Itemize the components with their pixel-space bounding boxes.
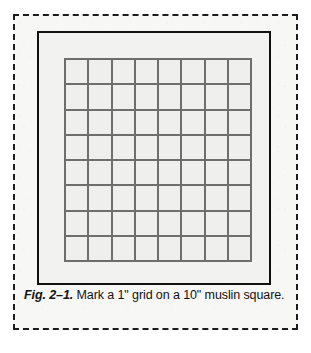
grid-cell <box>136 237 159 262</box>
grid-cell <box>89 237 112 262</box>
grid-cell <box>182 237 205 262</box>
grid-cell <box>66 212 89 237</box>
grid-cell <box>113 111 136 136</box>
grid-cell <box>159 237 182 262</box>
grid-cell <box>159 161 182 186</box>
grid-cell <box>66 186 89 211</box>
grid-cell <box>89 212 112 237</box>
grid-cell <box>113 60 136 85</box>
grid-cell <box>206 237 229 262</box>
grid-cell <box>89 85 112 110</box>
grid-cell <box>113 161 136 186</box>
grid-cell <box>113 237 136 262</box>
grid-cell <box>206 111 229 136</box>
grid-cell <box>136 186 159 211</box>
one-inch-grid <box>64 58 252 262</box>
grid-cell <box>182 212 205 237</box>
figure-plate: Fig. 2–1. Mark a 1" grid on a 10" muslin… <box>0 0 311 353</box>
grid-cell <box>89 136 112 161</box>
grid-cell <box>136 85 159 110</box>
grid-cell <box>66 161 89 186</box>
grid-cell <box>159 212 182 237</box>
grid-cell <box>136 212 159 237</box>
grid-cell <box>206 212 229 237</box>
grid-cell <box>136 111 159 136</box>
grid-cell <box>229 161 252 186</box>
grid-cell <box>113 212 136 237</box>
grid-cell <box>89 60 112 85</box>
grid-cell <box>229 111 252 136</box>
grid-cell <box>229 237 252 262</box>
grid-cell <box>159 111 182 136</box>
grid-cell <box>89 111 112 136</box>
grid-cell <box>182 60 205 85</box>
grid-cell <box>182 161 205 186</box>
grid-cell <box>182 136 205 161</box>
grid-cell <box>66 85 89 110</box>
muslin-square-outline <box>37 31 271 285</box>
grid-cell <box>229 186 252 211</box>
grid-cell <box>206 60 229 85</box>
grid-cell <box>136 136 159 161</box>
grid-cell <box>89 161 112 186</box>
grid-cell <box>66 111 89 136</box>
grid-cell <box>182 111 205 136</box>
grid-cell <box>66 237 89 262</box>
grid-cell <box>229 136 252 161</box>
grid-cell <box>229 85 252 110</box>
grid-cell <box>229 60 252 85</box>
grid-cell <box>89 186 112 211</box>
caption-description: Mark a 1" grid on a 10" muslin square. <box>73 288 284 302</box>
grid-cell <box>113 136 136 161</box>
grid-cell <box>136 161 159 186</box>
grid-cell <box>182 85 205 110</box>
caption-figure-number: Fig. 2–1. <box>24 288 73 302</box>
grid-cell <box>66 60 89 85</box>
grid-cell <box>66 136 89 161</box>
grid-cell <box>159 136 182 161</box>
grid-cell <box>229 212 252 237</box>
grid-cell <box>206 85 229 110</box>
grid-cell <box>113 85 136 110</box>
grid-cell <box>206 136 229 161</box>
grid-cell <box>206 161 229 186</box>
dashed-figure-frame: Fig. 2–1. Mark a 1" grid on a 10" muslin… <box>13 14 298 330</box>
grid-cell <box>206 186 229 211</box>
grid-cell <box>159 186 182 211</box>
grid-cell <box>182 186 205 211</box>
figure-caption: Fig. 2–1. Mark a 1" grid on a 10" muslin… <box>24 287 286 304</box>
grid-cell <box>113 186 136 211</box>
grid-cell <box>136 60 159 85</box>
grid-cell <box>159 60 182 85</box>
grid-cell <box>159 85 182 110</box>
